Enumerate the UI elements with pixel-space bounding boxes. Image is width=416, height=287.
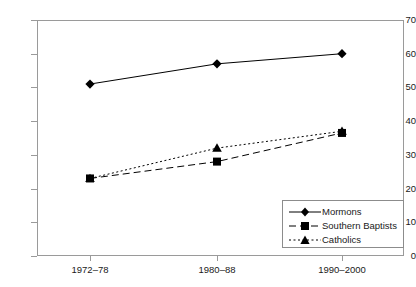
y-tick-label: 20: [390, 184, 416, 194]
y-tick-label: 40: [390, 116, 416, 126]
chart-legend: Mormons Southern Baptists Catholics: [282, 200, 404, 248]
line-chart: 706050403020100 1972–781980–881990–2000 …: [0, 0, 416, 287]
y-tick-mark: [31, 189, 37, 190]
y-tick-label: 30: [390, 150, 416, 160]
y-tick-mark: [31, 20, 37, 21]
x-tick-label: 1980–88: [172, 264, 262, 275]
legend-key-triangle-icon: [288, 233, 322, 247]
y-tick-mark: [31, 121, 37, 122]
y-tick-label: 70: [390, 15, 416, 25]
legend-label-mormons: Mormons: [322, 205, 362, 219]
x-tick-mark: [217, 256, 218, 261]
y-tick-mark: [31, 256, 37, 257]
y-tick-label: 50: [390, 82, 416, 92]
legend-key-diamond-icon: [288, 205, 322, 219]
y-tick-mark: [31, 87, 37, 88]
x-tick-mark: [90, 256, 91, 261]
legend-label-catholics: Catholics: [322, 233, 361, 247]
x-tick-label: 1972–78: [45, 264, 135, 275]
legend-key-square-icon: [288, 219, 322, 233]
legend-label-southern-baptists: Southern Baptists: [322, 219, 397, 233]
legend-item-mormons: Mormons: [288, 205, 398, 219]
y-tick-label: 60: [390, 49, 416, 59]
y-tick-mark: [31, 155, 37, 156]
legend-item-catholics: Catholics: [288, 233, 398, 247]
y-tick-mark: [31, 54, 37, 55]
x-tick-label: 1990–2000: [297, 264, 387, 275]
legend-item-southern-baptists: Southern Baptists: [288, 219, 398, 233]
y-tick-label: 0: [390, 251, 416, 261]
y-tick-mark: [31, 222, 37, 223]
x-tick-mark: [342, 256, 343, 261]
